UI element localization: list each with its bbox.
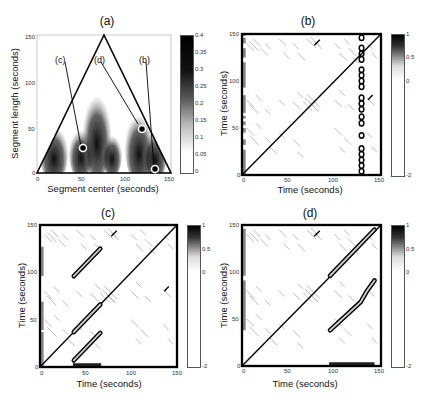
panel-c-xtick: 150 [172, 370, 182, 376]
annotation-b-label: (b) [139, 55, 150, 65]
panel-b-title: (b) [288, 14, 328, 28]
colorbar-tick: 0 [406, 269, 409, 275]
panel-d-title: (d) [290, 206, 330, 220]
panel-a-xlabel: Segment center (seconds) [23, 183, 183, 194]
colorbar-tick: 0.1 [195, 134, 203, 140]
panel-b-ytick: 100 [229, 78, 239, 84]
colorbar-tick: 0.5 [202, 246, 210, 252]
panel-a-ylabel: Segment length (seconds) [9, 34, 20, 174]
panel-a-xtick: 100 [120, 176, 130, 182]
colorbar-tick: 1 [202, 222, 205, 228]
panel-c-ytick: 50 [30, 317, 37, 323]
panel-c-colorbar [187, 225, 201, 368]
colorbar-tick: 0.05 [195, 151, 207, 157]
colorbar-tick: 0.3 [195, 66, 203, 72]
panel-b-xtick: 100 [328, 177, 338, 183]
colorbar-tick: 0.25 [195, 83, 207, 89]
panel-a-ytick: 150 [25, 34, 35, 40]
panel-c-xtick: 100 [126, 370, 136, 376]
colorbar-tick: -2 [406, 363, 411, 369]
colorbar-tick: 0.15 [195, 117, 207, 123]
panel-d-ytick: 0 [237, 363, 240, 369]
panel-d-colorbar [391, 225, 405, 368]
panel-b-xtick: 0 [242, 177, 245, 183]
panel-a-ytick: 100 [25, 80, 35, 86]
panel-a-ytick: 0 [32, 170, 35, 176]
panel-a-ytick: 50 [28, 126, 35, 132]
panel-c-ssm [40, 225, 177, 367]
panel-d-xtick: 50 [284, 368, 291, 374]
panel-a-xtick: 50 [78, 176, 85, 182]
colorbar-tick: 0.4 [195, 32, 203, 38]
panel-c-ytick: 150 [27, 222, 37, 228]
panel-b-ytick: 0 [237, 172, 240, 178]
panel-d-xtick: 100 [328, 368, 338, 374]
panel-a-colorbar [180, 35, 194, 174]
panel-d-xlabel: Time (seconds) [225, 378, 385, 389]
panel-b-xlabel: Time (seconds) [230, 184, 390, 195]
colorbar-tick: 0.5 [406, 54, 414, 60]
colorbar-tick: -2 [406, 172, 411, 178]
panel-a-xtick: 150 [164, 176, 174, 182]
panel-c-ytick: 100 [27, 269, 37, 275]
panel-d-xtick: 0 [242, 368, 245, 374]
panel-a-xtick: 0 [36, 176, 39, 182]
annotation-d-label: (d) [94, 55, 105, 65]
panel-d-ytick: 100 [229, 269, 239, 275]
panel-a-title: (a) [87, 14, 127, 28]
panel-d-ytick: 150 [229, 222, 239, 228]
panel-b-ytick: 50 [232, 125, 239, 131]
panel-c-ytick: 0 [35, 364, 38, 370]
panel-b-ytick: 150 [229, 31, 239, 37]
panel-d-xtick: 150 [374, 368, 384, 374]
panel-c-ylabel: Time (seconds) [16, 226, 27, 366]
panel-c-title: (c) [88, 206, 128, 220]
colorbar-tick: 1 [406, 222, 409, 228]
colorbar-tick: 1 [406, 31, 409, 37]
annotation-c-label: (c) [55, 55, 66, 65]
colorbar-tick: 0 [406, 78, 409, 84]
colorbar-tick: 0.2 [195, 100, 203, 106]
colorbar-tick: 0.5 [406, 246, 414, 252]
colorbar-tick: 0.35 [195, 49, 207, 55]
panel-b-colorbar [391, 34, 405, 177]
colorbar-tick: 0 [195, 168, 198, 174]
panel-b-xtick: 150 [374, 177, 384, 183]
panel-c-xlabel: Time (seconds) [29, 378, 189, 389]
colorbar-tick: -2 [202, 363, 207, 369]
panel-d-ytick: 50 [232, 316, 239, 322]
panel-d-ylabel: Time (seconds) [218, 226, 229, 366]
panel-b-xtick: 50 [284, 177, 291, 183]
panel-b-ylabel: Time (seconds) [218, 34, 229, 174]
panel-b-ssm [242, 34, 381, 175]
panel-d-ssm [242, 225, 381, 366]
panel-c-xtick: 50 [82, 370, 89, 376]
colorbar-tick: 0 [202, 269, 205, 275]
panel-c-xtick: 0 [40, 370, 43, 376]
